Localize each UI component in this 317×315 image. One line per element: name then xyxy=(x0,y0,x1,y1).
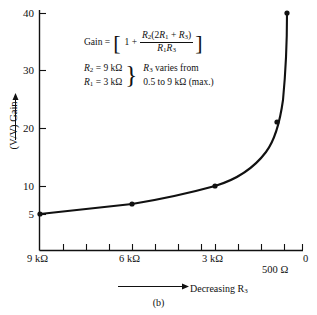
y-tick-label-5: 5 xyxy=(8,209,34,220)
formula-one-plus: 1 + xyxy=(125,37,137,49)
conditions-annotation: R2 = 9 kΩ R1 = 3 kΩ } R3 varies from 0.5… xyxy=(84,62,214,90)
x-axis-title-text: Decreasing R xyxy=(190,283,244,294)
num-plus: + xyxy=(169,30,179,40)
data-point xyxy=(129,201,134,206)
decreasing-arrow-icon xyxy=(118,284,189,290)
y-tick-label-40: 40 xyxy=(8,8,34,19)
data-point xyxy=(284,10,289,15)
x-tick-marks xyxy=(64,244,303,251)
conditions-values: R2 = 9 kΩ R1 = 3 kΩ xyxy=(84,62,122,90)
formula-denominator: R1R3 xyxy=(140,43,193,55)
condition-r2: R2 = 9 kΩ xyxy=(84,62,122,76)
data-point xyxy=(37,211,42,216)
y-tick-label-30: 30 xyxy=(8,65,34,76)
num-close: ) xyxy=(188,30,191,40)
x-tick-label-500: 500 Ω xyxy=(262,265,288,276)
x-tick-label-9k: 9 kΩ xyxy=(27,254,48,265)
den-r3-sub: 3 xyxy=(172,46,176,54)
bracket-close: ] xyxy=(195,34,202,52)
data-point xyxy=(274,119,279,124)
figure-caption: (b) xyxy=(0,297,317,308)
varies-line: R3 varies from xyxy=(143,62,213,76)
varies-text: varies from xyxy=(153,63,199,73)
cond-r1-val: = 3 kΩ xyxy=(93,77,122,87)
y-tick-marks xyxy=(40,14,47,215)
x-axis-title-sub: 3 xyxy=(244,287,248,295)
data-point xyxy=(212,183,217,188)
x-axis-title: Decreasing R3 xyxy=(190,283,248,295)
y-axis-title: (V/V) Gain xyxy=(8,82,19,170)
formula-numerator: R2(2R1 + R3) xyxy=(140,30,193,43)
gain-formula-annotation: Gain = [ 1 + R2(2R1 + R3) R1R3 ] xyxy=(84,30,244,55)
x-tick-label-6k: 6 kΩ xyxy=(119,254,140,265)
range-line: 0.5 to 9 kΩ (max.) xyxy=(143,76,213,90)
condition-r1: R1 = 3 kΩ xyxy=(84,76,122,90)
conditions-range: R3 varies from 0.5 to 9 kΩ (max.) xyxy=(143,62,213,90)
x-tick-label-0: 0 xyxy=(303,254,308,265)
cond-r2-val: = 9 kΩ xyxy=(93,63,122,73)
brace-icon: } xyxy=(125,66,137,85)
figure-panel-b: 40 30 20 10 5 (V/V) Gain 9 kΩ 6 kΩ 3 kΩ … xyxy=(0,0,317,315)
bracket-open: [ xyxy=(113,34,120,52)
y-tick-label-10: 10 xyxy=(8,181,34,192)
formula-fraction: R2(2R1 + R3) R1R3 xyxy=(140,30,193,55)
x-tick-label-3k: 3 kΩ xyxy=(202,254,223,265)
formula-gain-label: Gain = xyxy=(84,37,110,49)
